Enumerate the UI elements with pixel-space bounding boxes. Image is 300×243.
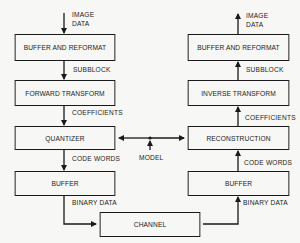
block-label: QUANTIZER <box>45 135 84 142</box>
block-dec-buffer-reformat: BUFFER AND REFORMAT <box>188 34 290 61</box>
arrow-channel-to-buffer <box>203 197 238 224</box>
block-label: INVERSE TRANSFORM <box>201 90 276 97</box>
block-reconstruction: RECONSTRUCTION <box>188 126 290 150</box>
block-inverse-transform: INVERSE TRANSFORM <box>188 80 290 106</box>
block-enc-buffer-reformat: BUFFER AND REFORMAT <box>15 34 116 61</box>
block-dec-buffer: BUFFER <box>188 171 290 196</box>
label-model: MODEL <box>139 154 163 163</box>
label-coefficients-enc: COEFFICIENTS <box>72 109 123 118</box>
block-enc-buffer: BUFFER <box>15 171 116 196</box>
label-line: IMAGE <box>72 11 94 20</box>
label-image-data-in: IMAGE DATA <box>72 11 94 28</box>
label-codewords-dec: CODE WORDS <box>244 159 292 168</box>
label-line: DATA <box>246 21 268 30</box>
label-image-data-out: IMAGE DATA <box>246 12 268 29</box>
block-label: RECONSTRUCTION <box>206 135 270 142</box>
block-quantizer: QUANTIZER <box>15 126 116 150</box>
block-label: BUFFER AND REFORMAT <box>24 44 107 51</box>
label-subblock-enc: SUBBLOCK <box>73 66 111 75</box>
label-subblock-dec: SUBBLOCK <box>246 66 284 75</box>
label-binary-data-enc: BINARY DATA <box>72 199 117 208</box>
label-codewords-enc: CODE WORDS <box>72 155 120 164</box>
block-label: FORWARD TRANSFORM <box>25 90 104 97</box>
label-coefficients-dec: COEFFICIENTS <box>245 114 296 123</box>
label-line: IMAGE <box>246 12 268 21</box>
block-label: CHANNEL <box>134 221 166 228</box>
block-label: BUFFER <box>51 180 78 187</box>
block-channel: CHANNEL <box>100 212 201 237</box>
label-binary-data-dec: BINARY DATA <box>243 199 288 208</box>
block-forward-transform: FORWARD TRANSFORM <box>15 80 116 106</box>
model-junction-dot <box>148 136 151 139</box>
label-line: DATA <box>72 20 94 29</box>
block-label: BUFFER AND REFORMAT <box>197 44 280 51</box>
block-label: BUFFER <box>225 180 252 187</box>
